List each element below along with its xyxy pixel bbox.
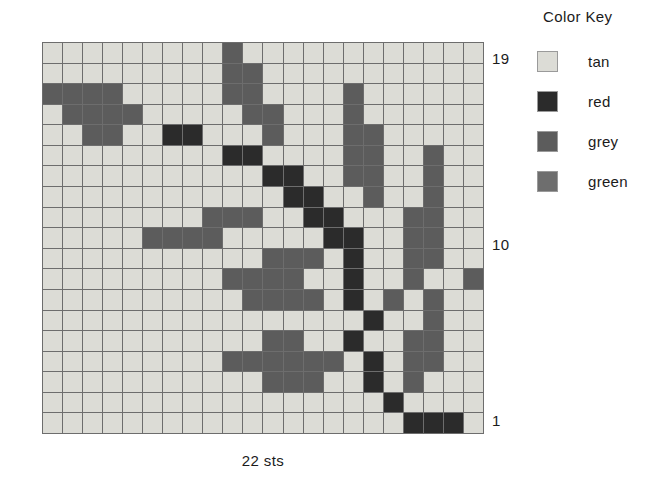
stitch-cell xyxy=(203,105,222,125)
stitch-cell xyxy=(284,352,303,372)
stitch-cell xyxy=(444,84,463,104)
stitch-cell xyxy=(444,228,463,248)
stitch-cell xyxy=(203,393,222,413)
stitch-cell xyxy=(384,43,403,63)
stitch-cell xyxy=(344,331,363,351)
stitch-cell xyxy=(364,331,383,351)
stitch-cell xyxy=(384,208,403,228)
stitch-cell xyxy=(163,166,182,186)
stitch-cell xyxy=(203,331,222,351)
stitch-cell xyxy=(243,84,262,104)
stitch-cell xyxy=(163,393,182,413)
stitch-cell xyxy=(123,84,142,104)
stitch-cell xyxy=(344,105,363,125)
stitch-cell xyxy=(163,331,182,351)
stitch-cell xyxy=(183,311,202,331)
stitch-cell xyxy=(123,269,142,289)
stitch-cell xyxy=(203,166,222,186)
stitch-cell xyxy=(464,84,483,104)
stitch-cell xyxy=(43,125,62,145)
stitch-cell xyxy=(163,352,182,372)
stitch-cell xyxy=(103,228,122,248)
stitch-cell xyxy=(324,249,343,269)
stitch-cell xyxy=(63,290,82,310)
stitch-cell xyxy=(424,352,443,372)
stitch-cell xyxy=(384,125,403,145)
stitch-cell xyxy=(263,187,282,207)
stitch-cell xyxy=(263,84,282,104)
row-label-bottom: 1 xyxy=(492,412,532,429)
stitch-cell xyxy=(43,166,62,186)
stitch-cell xyxy=(404,331,423,351)
stitch-cell xyxy=(43,290,62,310)
stitch-cell xyxy=(203,228,222,248)
stitch-cell xyxy=(163,413,182,433)
stitch-cell xyxy=(424,146,443,166)
stitch-cell xyxy=(344,125,363,145)
stitch-cell xyxy=(324,290,343,310)
stitch-cell xyxy=(103,269,122,289)
stitch-cell xyxy=(344,269,363,289)
stitch-cell xyxy=(404,290,423,310)
stitch-cell xyxy=(243,352,262,372)
stitch-cell xyxy=(404,228,423,248)
stitch-cell xyxy=(324,228,343,248)
stitch-cell xyxy=(284,105,303,125)
stitch-cell xyxy=(444,269,463,289)
stitch-cell xyxy=(404,208,423,228)
stitch-cell xyxy=(143,352,162,372)
stitch-cell xyxy=(63,228,82,248)
stitch-cell xyxy=(123,290,142,310)
stitch-cell xyxy=(444,372,463,392)
stitch-cell xyxy=(223,146,242,166)
stitch-cell xyxy=(123,393,142,413)
stitch-cell xyxy=(324,84,343,104)
stitch-cell xyxy=(464,331,483,351)
stitch-cell xyxy=(344,64,363,84)
stitch-cell xyxy=(404,187,423,207)
stitch-cell xyxy=(63,269,82,289)
stitch-cell xyxy=(63,146,82,166)
stitch-cell xyxy=(223,105,242,125)
stitch-cell xyxy=(43,228,62,248)
stitch-cell xyxy=(464,187,483,207)
color-key-title: Color Key xyxy=(543,8,645,25)
stitch-cell xyxy=(43,352,62,372)
stitch-cell xyxy=(163,43,182,63)
stitch-cell xyxy=(183,187,202,207)
stitch-cell xyxy=(444,43,463,63)
stitch-cell xyxy=(243,413,262,433)
stitch-cell xyxy=(183,84,202,104)
stitch-cell xyxy=(263,146,282,166)
stitch-cell xyxy=(123,146,142,166)
stitch-cell xyxy=(243,64,262,84)
stitch-cell xyxy=(444,290,463,310)
stitch-cell xyxy=(464,105,483,125)
stitch-cell xyxy=(203,269,222,289)
stitch-cell xyxy=(284,311,303,331)
stitch-cell xyxy=(43,393,62,413)
stitch-cell xyxy=(163,125,182,145)
stitch-cell xyxy=(263,311,282,331)
stitch-cell xyxy=(344,372,363,392)
stitch-cell xyxy=(83,393,102,413)
stitch-cell xyxy=(324,166,343,186)
stitch-cell xyxy=(43,105,62,125)
stitch-cell xyxy=(103,84,122,104)
stitch-cell xyxy=(284,166,303,186)
stitch-cell xyxy=(324,43,343,63)
stitch-cell xyxy=(464,228,483,248)
stitch-cell xyxy=(223,84,242,104)
stitch-cell xyxy=(183,393,202,413)
stitch-cell xyxy=(243,166,262,186)
stitch-cell xyxy=(304,228,323,248)
stitch-cell xyxy=(364,84,383,104)
stitch-cell xyxy=(344,413,363,433)
stitch-cell xyxy=(424,269,443,289)
stitch-cell xyxy=(444,249,463,269)
color-swatch-tan xyxy=(537,51,558,72)
stitch-cell xyxy=(183,105,202,125)
stitch-cell xyxy=(384,290,403,310)
stitch-cell xyxy=(304,331,323,351)
stitch-cell xyxy=(263,372,282,392)
